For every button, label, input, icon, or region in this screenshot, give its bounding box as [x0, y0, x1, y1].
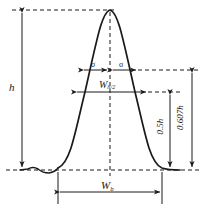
gaussian-peak-curve	[58, 10, 180, 170]
peak-height-label: h	[9, 82, 15, 93]
half-height-label: 0.5h	[156, 119, 165, 135]
width-base-label: Wb	[101, 180, 114, 192]
sigma-right-label: σ	[119, 61, 123, 69]
width-half-height-label: Wh/2	[99, 80, 115, 91]
gaussian-peak-diagram: h σ σ Wh/2 Wb 0.5h 0.607h	[0, 0, 205, 213]
width-base-subscript: b	[110, 185, 113, 192]
sigma-left-label: σ	[91, 61, 95, 69]
inflection-height-label: 0.607h	[176, 105, 185, 130]
width-half-height-subscript: h/2	[107, 83, 115, 90]
baseline-noise-curve	[20, 168, 58, 174]
reference-lines-group	[6, 10, 201, 176]
width-base-symbol: W	[101, 179, 110, 191]
